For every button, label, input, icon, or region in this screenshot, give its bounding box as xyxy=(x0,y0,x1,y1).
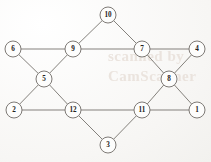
node-label: 12 xyxy=(69,106,77,114)
graph-edge xyxy=(174,55,191,73)
graph-node-9: 9 xyxy=(65,41,81,57)
graph-node-2: 2 xyxy=(6,102,22,118)
graph-canvas: 106974582121113 xyxy=(0,0,211,162)
graph-edge xyxy=(147,55,163,73)
graph-node-4: 4 xyxy=(189,41,205,57)
graph-node-5: 5 xyxy=(36,71,52,87)
graph-node-7: 7 xyxy=(134,41,150,57)
node-label: 3 xyxy=(106,141,110,149)
graph-node-12: 12 xyxy=(65,102,81,118)
node-label: 8 xyxy=(167,75,171,83)
graph-node-10: 10 xyxy=(100,7,116,23)
nodes-layer: 106974582121113 xyxy=(5,7,205,153)
graph-edge xyxy=(147,85,164,104)
graph-edge xyxy=(50,55,68,74)
graph-edge xyxy=(19,55,39,74)
graph-edge xyxy=(79,116,103,140)
graph-edge xyxy=(114,21,137,44)
node-label: 5 xyxy=(42,75,46,83)
node-label: 10 xyxy=(104,11,112,19)
graph-node-1: 1 xyxy=(189,102,205,118)
node-label: 1 xyxy=(195,106,199,114)
node-label: 4 xyxy=(195,45,199,53)
graph-node-8: 8 xyxy=(161,71,177,87)
graph-edge xyxy=(79,21,103,44)
graph-node-6: 6 xyxy=(5,41,21,57)
graph-diagram-screenshot: scanned by CamScanner 106974582121113 xyxy=(0,0,211,162)
graph-node-3: 3 xyxy=(100,137,116,153)
node-label: 6 xyxy=(11,45,15,53)
graph-edge xyxy=(174,85,191,104)
graph-node-11: 11 xyxy=(134,102,150,118)
graph-edge xyxy=(49,85,67,104)
node-label: 9 xyxy=(71,45,75,53)
node-label: 2 xyxy=(12,106,16,114)
node-label: 11 xyxy=(139,106,146,114)
graph-edge xyxy=(20,85,39,105)
node-label: 7 xyxy=(140,45,144,53)
graph-edge xyxy=(114,116,137,140)
